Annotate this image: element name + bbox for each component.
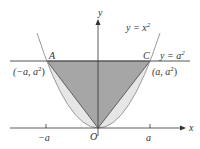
- tick-label-pos-a: a: [146, 132, 151, 143]
- x-axis-arrow-icon: [180, 126, 186, 131]
- point-A-coord: (−a, a2): [13, 65, 45, 78]
- point-A-label: A: [48, 50, 56, 61]
- y-axis-arrow-icon: [96, 19, 101, 25]
- line-label: y = a2: [159, 49, 185, 61]
- y-axis-label: y: [97, 7, 103, 18]
- diagram-canvas: y x O −a a y = x2 y = a2 A C (−a, a2) (a…: [0, 0, 200, 149]
- point-C-label: C: [143, 50, 150, 61]
- x-axis-label: x: [188, 122, 194, 133]
- tick-label-neg-a: −a: [38, 132, 50, 143]
- parabola-triangle-diagram: y x O −a a y = x2 y = a2 A C (−a, a2) (a…: [0, 0, 200, 149]
- origin-label: O: [90, 131, 97, 142]
- point-C-coord: (a, a2): [152, 65, 177, 78]
- curve-label: y = x2: [125, 21, 151, 33]
